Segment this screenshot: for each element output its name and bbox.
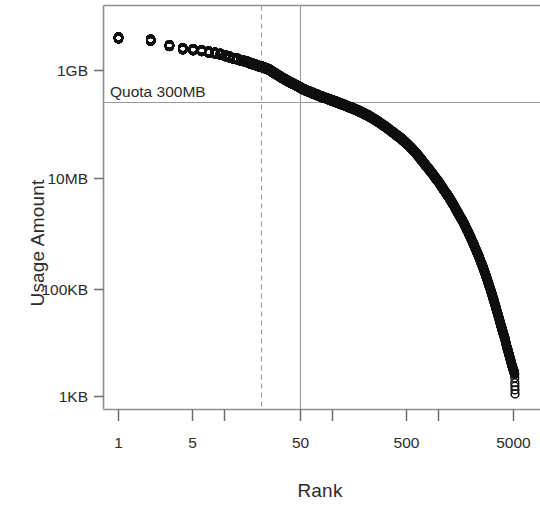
- y-tick-label-1kb: 1KB: [59, 388, 88, 405]
- y-tick-label-1gb: 1GB: [57, 62, 88, 79]
- chart-figure: Usage Amount Rank Quota 300MB 1GB 10MB 1…: [0, 0, 540, 516]
- y-tick-label-10mb: 10MB: [48, 170, 89, 187]
- plot-frame: [104, 6, 540, 410]
- y-tick-label-100kb: 100KB: [41, 281, 88, 298]
- plot-canvas: Quota 300MB 1GB 10MB 100KB 1KB 1 5 50 50…: [0, 0, 540, 516]
- x-tick-label-50: 50: [292, 434, 310, 451]
- y-axis-ticks: 1GB 10MB 100KB 1KB: [41, 62, 103, 405]
- quota-annotation-label: Quota 300MB: [110, 83, 206, 100]
- x-tick-label-5: 5: [188, 434, 197, 451]
- x-tick-label-500: 500: [394, 434, 420, 451]
- x-tick-label-1: 1: [114, 434, 123, 451]
- x-tick-label-5000: 5000: [496, 434, 531, 451]
- reference-lines: [104, 6, 540, 410]
- x-axis-ticks: 1 5 50 500 5000: [114, 410, 531, 452]
